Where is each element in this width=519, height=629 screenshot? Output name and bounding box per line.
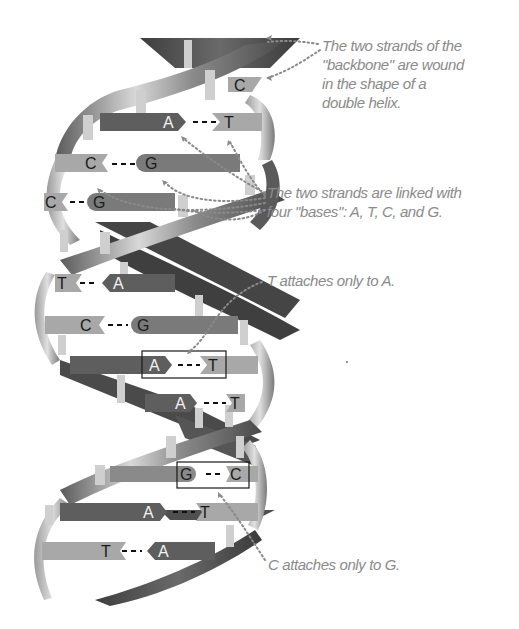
base-C: C: [80, 317, 92, 334]
base-G: G: [137, 317, 149, 334]
callout-bases: The two strands are linked with four "ba…: [267, 183, 461, 221]
base-C: C: [230, 466, 242, 483]
callout-c-attaches-g: C attaches only to G.: [268, 555, 400, 574]
callout-line: in the shape of a: [322, 74, 464, 93]
base-T: T: [101, 543, 111, 560]
base-G: G: [93, 194, 105, 211]
base-A: A: [158, 543, 169, 560]
callout-line: C attaches only to G.: [268, 555, 400, 574]
base-T: T: [57, 275, 67, 292]
base-pair-5: C G: [45, 316, 238, 334]
callout-t-attaches-a: T attaches only to A.: [267, 271, 395, 290]
base-pair-2: C G: [55, 154, 240, 172]
base-G: G: [180, 466, 192, 483]
callout-line: The two strands are linked with: [267, 183, 461, 202]
base-T: T: [224, 114, 234, 131]
base-A: A: [143, 504, 154, 521]
callout-backbone: The two strands of the "backbone" are wo…: [322, 36, 464, 112]
base-A: A: [163, 114, 174, 131]
base-C: C: [85, 155, 97, 172]
image-speck: [346, 361, 348, 363]
callout-line: "backbone" are wound: [322, 55, 464, 74]
base-pair-4: T A: [55, 274, 175, 292]
base-C: C: [234, 77, 246, 94]
base-C: C: [45, 194, 57, 211]
base-pair-1: A T: [100, 113, 262, 131]
callout-line: four "bases": A, T, C, and G.: [267, 202, 461, 221]
base-A: A: [149, 357, 160, 374]
base-A: A: [113, 275, 124, 292]
base-pair-6-highlighted: A T: [70, 351, 258, 378]
base-T: T: [230, 395, 240, 412]
base-pair-9: A T: [60, 503, 258, 521]
base-T: T: [200, 504, 210, 521]
base-pair-0: C: [228, 77, 262, 94]
callout-line: double helix.: [322, 93, 464, 112]
dna-diagram: C A T C G C G T: [0, 0, 519, 629]
callout-line: T attaches only to A.: [267, 271, 395, 290]
base-A: A: [175, 395, 186, 412]
base-T: T: [208, 357, 218, 374]
callout-line: The two strands of the: [322, 36, 464, 55]
base-G: G: [145, 155, 157, 172]
base-pair-10: T A: [42, 542, 215, 560]
